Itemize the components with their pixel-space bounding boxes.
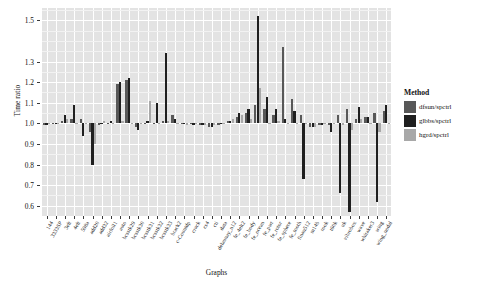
bar — [213, 123, 215, 125]
legend-color-swatch — [404, 101, 416, 113]
bar — [165, 53, 167, 123]
x-axis-tick-mark — [148, 216, 149, 219]
bar — [337, 115, 339, 123]
bar — [186, 123, 188, 125]
bar — [103, 121, 105, 123]
bar — [296, 123, 298, 124]
x-axis-tick-mark — [230, 216, 231, 219]
bar — [250, 119, 252, 123]
y-axis-tick-label: 0.9 — [25, 139, 34, 148]
bar — [360, 119, 362, 123]
x-axis-tick-mark — [65, 216, 66, 219]
bar — [266, 97, 268, 124]
bar — [128, 78, 130, 123]
legend-color-swatch — [404, 129, 416, 141]
x-axis-tick-label: uk — [340, 220, 348, 228]
y-axis-tick-label: 0.6 — [25, 201, 34, 210]
x-axis-tick-mark — [102, 216, 103, 219]
y-axis-tick-label: 1.5 — [25, 16, 34, 25]
y-axis-tick-labels: 0.60.70.80.91.01.11.21.31.5 — [10, 8, 40, 216]
plot-panel — [42, 8, 391, 216]
bar — [195, 123, 197, 124]
x-axis-tick-mark — [129, 216, 130, 219]
x-axis-tick-mark — [386, 216, 387, 219]
x-axis-tick-mark — [47, 216, 48, 219]
y-axis-tick-mark — [37, 144, 40, 145]
legend-item: hgrd/spctrl — [404, 128, 484, 141]
bar — [73, 105, 75, 124]
y-axis-tick-mark — [37, 82, 40, 83]
legend-item-label: dfsun/spctrl — [419, 103, 452, 110]
y-axis-tick-mark — [37, 62, 40, 63]
bar — [176, 123, 178, 124]
legend-color-swatch — [404, 115, 416, 127]
bar — [351, 123, 353, 129]
bar — [300, 115, 302, 123]
legend-item-label: hgrd/spctrl — [419, 131, 449, 138]
bar — [204, 123, 206, 125]
y-axis-tick-mark — [37, 103, 40, 104]
x-axis-tick-mark — [295, 216, 296, 219]
y-axis-tick-label: 0.8 — [25, 160, 34, 169]
x-axis-tick-mark — [111, 216, 112, 219]
bar — [156, 103, 158, 124]
legend-item-label: glbbs/spctrl — [419, 117, 451, 124]
bar — [121, 121, 123, 123]
x-axis-tick-mark — [368, 216, 369, 219]
bar — [137, 123, 139, 129]
bar — [119, 82, 121, 123]
x-axis-title: Graphs — [42, 268, 391, 277]
bar — [369, 123, 371, 124]
bar — [66, 119, 68, 123]
x-axis-tick-mark — [203, 216, 204, 219]
y-axis-tick-mark — [37, 123, 40, 124]
bar — [94, 123, 96, 144]
bar — [385, 105, 387, 124]
x-axis-tick-mark — [83, 216, 84, 219]
legend-item: dfsun/spctrl — [404, 100, 484, 113]
bar — [222, 123, 224, 124]
bar — [346, 109, 348, 123]
bar — [144, 123, 146, 124]
bar — [293, 111, 295, 123]
bar — [348, 123, 350, 212]
bar — [314, 123, 316, 127]
bar — [75, 123, 77, 124]
x-axis-tick-mark — [175, 216, 176, 219]
bar — [153, 123, 155, 124]
x-axis-tick-mark — [267, 216, 268, 219]
x-axis-tick-label: t60k — [328, 220, 338, 232]
bar — [112, 123, 114, 124]
bar — [241, 115, 243, 123]
x-axis-tick-label: cs4 — [201, 220, 210, 230]
bar — [158, 123, 160, 124]
legend: Method dfsun/spctrlglbbs/spctrlhgrd/spct… — [404, 88, 484, 142]
bar — [277, 121, 279, 123]
bar — [376, 123, 378, 201]
x-axis-tick-mark — [221, 216, 222, 219]
x-axis-tick-mark — [377, 216, 378, 219]
x-axis-tick-mark — [157, 216, 158, 219]
y-axis-tick-mark — [37, 185, 40, 186]
y-axis-tick-label: 1.3 — [25, 57, 34, 66]
x-axis-tick-mark — [120, 216, 121, 219]
x-axis-tick-labels: 1443333SP3elt4elt598aadd20add32airfoil1a… — [42, 220, 391, 266]
y-axis-tick-mark — [37, 165, 40, 166]
bar — [302, 123, 304, 179]
bar — [107, 123, 109, 124]
x-axis-tick-mark — [331, 216, 332, 219]
x-axis-tick-mark — [350, 216, 351, 219]
x-axis-tick-mark — [138, 216, 139, 219]
x-axis-tick-mark — [194, 216, 195, 219]
y-axis-tick-mark — [37, 20, 40, 21]
legend-item: glbbs/spctrl — [404, 114, 484, 127]
y-axis-tick-label: 1.2 — [25, 78, 34, 87]
bar — [167, 121, 169, 123]
bar — [48, 123, 50, 124]
x-axis-tick-mark — [93, 216, 94, 219]
bar — [82, 123, 84, 135]
bar — [373, 113, 375, 123]
bar — [333, 123, 335, 124]
bar — [57, 123, 59, 124]
bar — [282, 47, 284, 123]
